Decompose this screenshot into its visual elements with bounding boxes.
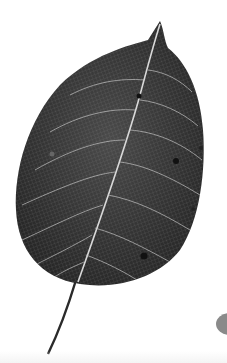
- edge-object: [216, 313, 227, 335]
- leaf-stem: [48, 280, 76, 354]
- leaf-photo: [0, 0, 227, 363]
- bottom-edge: [0, 351, 227, 363]
- leaf-blade: [0, 0, 227, 363]
